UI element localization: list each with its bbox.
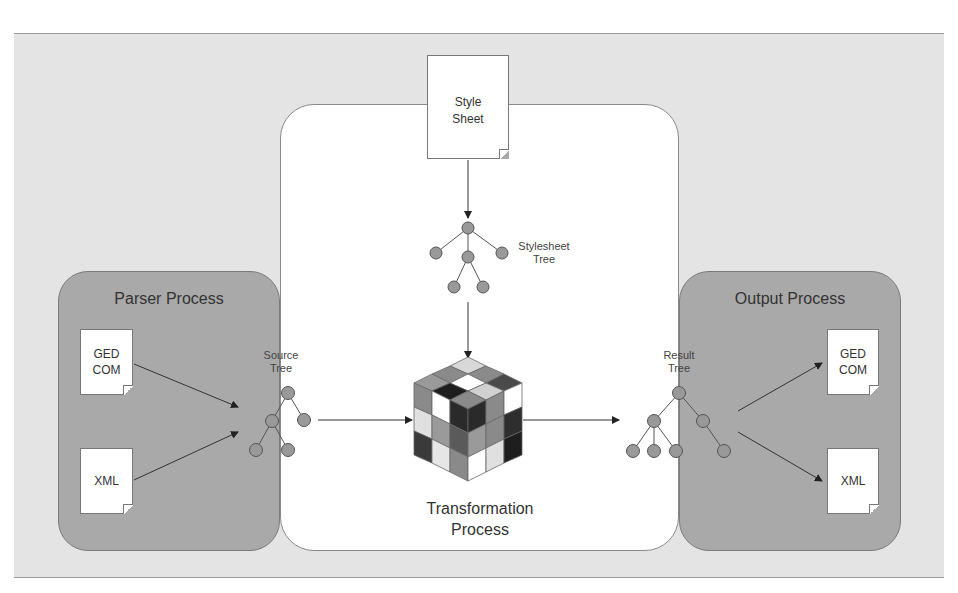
stylesheet-tree-icon <box>430 222 508 293</box>
arrow-gedcom-to-source-tree <box>134 364 238 407</box>
arrow-result-tree-to-xml <box>738 432 822 481</box>
rubiks-cube-icon <box>414 357 522 481</box>
source-tree-icon <box>250 387 311 457</box>
diagram-graphics <box>0 0 958 593</box>
arrow-result-tree-to-gedcom <box>738 363 822 411</box>
arrow-xml-to-source-tree <box>134 432 238 480</box>
result-tree-icon <box>627 387 731 458</box>
